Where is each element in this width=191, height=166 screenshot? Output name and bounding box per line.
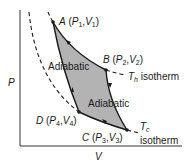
point-c-dot bbox=[125, 128, 129, 132]
y-axis-label: P bbox=[8, 77, 15, 88]
isotherm-hot-extension-right bbox=[106, 70, 125, 75]
adiabatic-left-label: Adiabatic bbox=[48, 61, 89, 72]
point-d-label: D (P4,V4) bbox=[36, 115, 77, 127]
carnot-diagram: P V A (P1,V1) B (P2,V2) D (P4,V4) C (P3,… bbox=[0, 0, 191, 166]
x-axis-label: V bbox=[95, 151, 103, 162]
point-b-dot bbox=[104, 68, 108, 72]
hot-isotherm-label: Th isotherm bbox=[128, 71, 179, 83]
point-b-label: B (P2,V2) bbox=[103, 54, 143, 66]
isotherm-cold-extension-right bbox=[127, 130, 140, 133]
point-a-label: A (P1,V1) bbox=[58, 16, 99, 28]
point-a-dot bbox=[51, 20, 55, 24]
cold-isotherm-text: isotherm bbox=[140, 135, 178, 146]
point-c-label: C (P3,V3) bbox=[82, 132, 123, 144]
cold-isotherm-symbol: Tc bbox=[140, 121, 150, 133]
point-d-dot bbox=[77, 110, 81, 114]
adiabatic-right-label: Adiabatic bbox=[88, 98, 129, 109]
